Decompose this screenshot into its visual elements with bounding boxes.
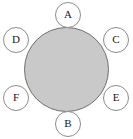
diagram-canvas: A C E B F D	[0, 0, 133, 139]
node-b-label: B	[64, 118, 71, 130]
central-disc	[24, 27, 109, 112]
node-d-label: D	[12, 34, 20, 46]
node-f[interactable]: F	[3, 85, 29, 111]
node-c[interactable]: C	[103, 27, 129, 53]
node-c-label: C	[112, 34, 119, 46]
node-d[interactable]: D	[3, 27, 29, 53]
node-e[interactable]: E	[103, 85, 129, 111]
node-e-label: E	[113, 92, 120, 104]
node-f-label: F	[13, 92, 19, 104]
node-b[interactable]: B	[55, 111, 81, 137]
node-a[interactable]: A	[55, 2, 81, 28]
node-a-label: A	[64, 9, 72, 21]
